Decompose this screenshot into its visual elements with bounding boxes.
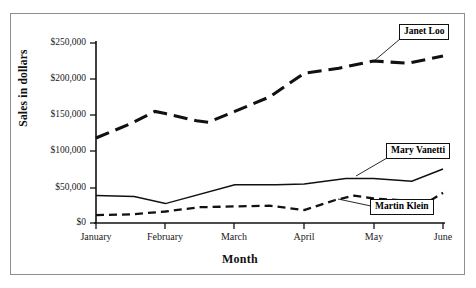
x-tick-marks [96,223,443,229]
x-tick-label-march: March [199,231,269,242]
y-tick-label-150000: $150,000 [28,109,86,119]
y-tick-label-50000: $50,000 [28,182,86,192]
series-label-mary-vanetti: Mary Vanetti [386,143,450,159]
x-tick-label-april: April [269,231,339,242]
y-tick-marks [90,43,96,223]
series-label-martin-klein: Martin Klein [370,199,434,215]
y-tick-label-100000: $100,000 [28,145,86,155]
callout-leader-janet [374,39,400,61]
y-tick-label-200000: $200,000 [28,73,86,83]
series-line-janet-loo [96,56,443,138]
callout-leader-martin [338,199,371,206]
x-tick-label-june: June [408,231,476,242]
callout-leader-mary [356,158,387,176]
y-tick-label-0: $0 [28,217,86,227]
y-tick-label-250000: $250,000 [28,37,86,47]
x-tick-label-may: May [339,231,409,242]
x-tick-label-february: February [130,231,200,242]
x-tick-label-january: January [61,231,131,242]
series-label-janet-loo: Janet Loo [399,24,449,40]
x-axis-title: Month [190,252,290,267]
line-chart-figure: Sales in dollars Month $250,000 $200,000… [0,0,476,288]
